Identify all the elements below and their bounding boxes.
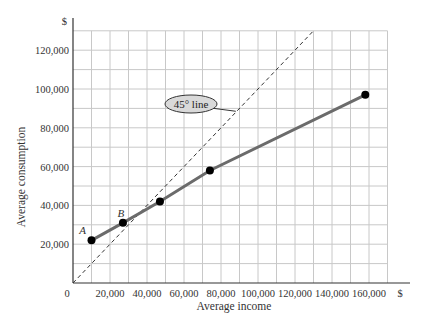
data-point-marker [361,91,369,99]
callout-label: 45° line [174,98,209,110]
y-tick-label: 20,000 [40,239,69,250]
data-point-marker [206,166,214,174]
data-point-marker [88,236,96,244]
consumption-series: AB [78,91,369,245]
callout-45-line: 45° line [165,95,236,113]
y-tick-label: 80,000 [40,123,69,134]
x-axis-ticks: 020,00040,00060,00080,000100,000120,0001… [64,288,386,299]
point-label-b: B [118,207,125,219]
series-line [92,95,366,241]
y-tick-label: 120,000 [35,45,69,56]
grid [73,31,388,283]
y-axis-title: Average consumption [15,127,28,228]
x-axis-title: Average income [197,300,272,313]
x-tick-label: 160,000 [352,288,386,299]
x-tick-label: 0 [64,288,69,299]
45-degree-dashed-line [73,31,314,283]
y-axis-ticks: 20,00040,00060,00080,000100,000120,000 [35,45,69,250]
data-point-marker [156,198,164,206]
y-axis-unit: $ [62,16,67,27]
x-tick-label: 40,000 [133,288,162,299]
x-axis-unit: $ [397,288,402,299]
y-tick-label: 100,000 [35,84,69,95]
x-tick-label: 20,000 [96,288,125,299]
x-tick-label: 120,000 [278,288,312,299]
y-tick-label: 60,000 [40,162,69,173]
chart: AB 020,00040,00060,00080,000100,000120,0… [0,0,427,324]
x-tick-label: 100,000 [241,288,275,299]
point-label-a: A [78,224,86,236]
45-degree-line [73,31,314,283]
axes [73,18,410,283]
x-tick-label: 80,000 [207,288,236,299]
data-point-marker [119,219,127,227]
x-tick-label: 140,000 [315,288,349,299]
y-tick-label: 40,000 [40,200,69,211]
x-tick-label: 60,000 [170,288,199,299]
